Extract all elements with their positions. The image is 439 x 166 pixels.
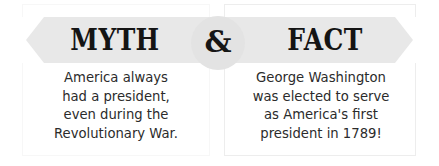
fact-body-text: George Washington was elected to serve a… bbox=[228, 69, 414, 143]
myth-body-line: had a president, bbox=[26, 88, 206, 107]
myth-heading: MYTH bbox=[42, 22, 188, 58]
fact-heading: FACT bbox=[252, 22, 398, 58]
myth-body-line: Revolutionary War. bbox=[26, 125, 206, 144]
fact-body-line: was elected to serve bbox=[228, 88, 414, 107]
fact-body-line: president in 1789! bbox=[228, 125, 414, 144]
myth-body-text: America always had a president, even dur… bbox=[26, 69, 206, 143]
fact-body-line: George Washington bbox=[228, 69, 414, 88]
fact-body-line: as America's first bbox=[228, 106, 414, 125]
ampersand-badge: & bbox=[191, 16, 245, 70]
myth-body-line: even during the bbox=[26, 106, 206, 125]
myth-fact-graphic: MYTH FACT & America always had a preside… bbox=[0, 0, 439, 166]
ampersand-icon: & bbox=[204, 27, 231, 57]
myth-body-line: America always bbox=[26, 69, 206, 88]
